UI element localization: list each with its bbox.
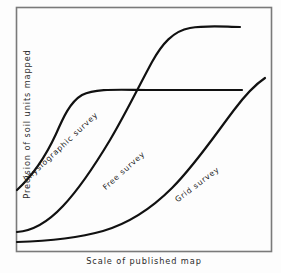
y-axis-label: Precision of soil units mapped bbox=[22, 34, 32, 214]
line-chart-plot bbox=[0, 0, 281, 273]
curve-free-survey bbox=[17, 26, 240, 232]
figure-container: Precision of soil units mapped Scale of … bbox=[0, 0, 281, 273]
x-axis-label: Scale of published map bbox=[15, 256, 273, 266]
